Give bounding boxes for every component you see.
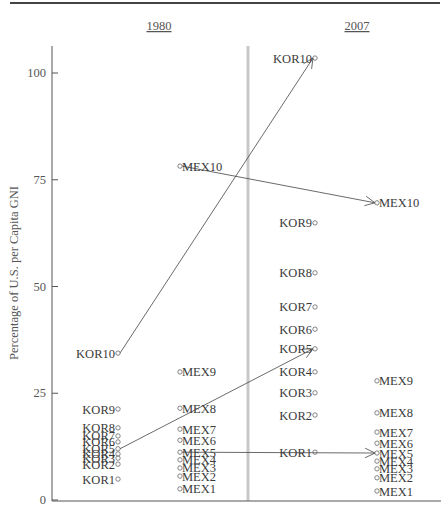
- data-point: KOR9: [82, 403, 120, 417]
- point-label: KOR2: [279, 409, 312, 423]
- data-point: MEX1: [178, 482, 216, 496]
- point-label: KOR10: [76, 347, 115, 361]
- data-point: KOR8: [82, 421, 120, 435]
- data-point: MEX8: [375, 406, 413, 420]
- point-label: KOR7: [279, 300, 312, 314]
- point-label: MEX7: [379, 426, 413, 440]
- point-marker-icon: [313, 413, 317, 417]
- point-label: MEX10: [379, 196, 419, 210]
- point-marker-icon: [116, 452, 120, 456]
- data-point: KOR10: [76, 347, 120, 361]
- point-label: MEX9: [379, 374, 413, 388]
- point-label: KOR4: [279, 365, 312, 379]
- point-label: MEX7: [182, 423, 216, 437]
- point-label: MEX1: [379, 485, 413, 499]
- point-label: MEX8: [182, 402, 216, 416]
- point-label: KOR5: [279, 342, 312, 356]
- point-marker-icon: [116, 456, 120, 460]
- point-label: MEX9: [182, 365, 216, 379]
- y-tick-label: 50: [34, 280, 47, 294]
- data-point: MEX9: [375, 374, 413, 388]
- point-marker-icon: [116, 477, 120, 481]
- point-marker-icon: [313, 391, 317, 395]
- point-marker-icon: [116, 426, 120, 430]
- point-label: MEX1: [182, 482, 216, 496]
- point-marker-icon: [313, 56, 317, 60]
- point-marker-icon: [116, 447, 120, 451]
- point-label: KOR8: [279, 266, 312, 280]
- data-point: KOR1: [82, 473, 120, 487]
- point-label: KOR3: [279, 386, 312, 400]
- panel-title-2007: 2007: [345, 19, 370, 33]
- data-point: KOR9: [279, 216, 317, 230]
- y-tick-label: 0: [40, 493, 46, 507]
- point-marker-icon: [116, 407, 120, 411]
- point-label: MEX8: [379, 406, 413, 420]
- data-point: MEX10: [375, 196, 419, 210]
- point-marker-icon: [313, 271, 317, 275]
- data-point: MEX7: [178, 423, 216, 437]
- point-marker-icon: [116, 462, 120, 466]
- point-marker-icon: [313, 221, 317, 225]
- point-marker-icon: [313, 450, 317, 454]
- data-point: MEX7: [375, 426, 413, 440]
- point-label: KOR8: [82, 421, 115, 435]
- point-marker-icon: [116, 434, 120, 438]
- point-label: MEX10: [182, 160, 222, 174]
- point-label: KOR1: [82, 473, 115, 487]
- data-point: KOR10: [273, 52, 317, 66]
- data-point: KOR8: [279, 266, 317, 280]
- chart-canvas: 1980 2007 0255075100 Percentage of U.S. …: [0, 0, 447, 517]
- y-tick-label: 25: [34, 386, 47, 400]
- y-tick-label: 100: [27, 66, 46, 80]
- data-point: KOR3: [279, 386, 317, 400]
- data-point: KOR5: [279, 342, 317, 356]
- point-marker-icon: [116, 351, 120, 355]
- data-point: MEX10: [178, 160, 222, 174]
- data-point: MEX9: [178, 365, 216, 379]
- point-label: KOR9: [279, 216, 312, 230]
- point-label: KOR10: [273, 52, 312, 66]
- panel-title-1980: 1980: [147, 19, 172, 33]
- data-point: MEX5: [178, 446, 216, 460]
- data-point: MEX8: [178, 402, 216, 416]
- point-label: MEX5: [182, 446, 216, 460]
- point-marker-icon: [313, 327, 317, 331]
- y-tick-label: 75: [34, 173, 47, 187]
- data-point: KOR6: [279, 323, 317, 337]
- data-point: MEX1: [375, 485, 413, 499]
- data-point: KOR7: [279, 300, 317, 314]
- point-marker-icon: [313, 305, 317, 309]
- point-marker-icon: [313, 370, 317, 374]
- point-marker-icon: [116, 440, 120, 444]
- data-point: KOR2: [279, 409, 317, 423]
- point-label: KOR9: [82, 403, 115, 417]
- y-ticks: 0255075100: [27, 66, 58, 507]
- data-point: KOR4: [279, 365, 317, 379]
- point-label: KOR6: [279, 323, 312, 337]
- y-axis-label: Percentage of U.S. per Capita GNI: [7, 186, 21, 360]
- data-point: KOR1: [279, 446, 317, 460]
- point-label: KOR1: [279, 446, 312, 460]
